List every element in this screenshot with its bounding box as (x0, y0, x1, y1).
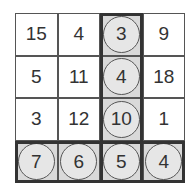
highlighted-cell: 4 (100, 56, 143, 99)
grid-cell: 18 (143, 56, 186, 99)
cell-value: 6 (73, 151, 84, 173)
grid-cell: 3 (15, 98, 58, 141)
cell-value: 15 (26, 23, 47, 45)
cell-value: 5 (116, 151, 127, 173)
cell-value: 18 (153, 66, 174, 88)
cell-value: 9 (158, 23, 169, 45)
grid-cell: 9 (143, 13, 186, 56)
circle-marker-icon: 4 (103, 58, 140, 95)
highlighted-cell: 5 (100, 141, 143, 184)
grid-cell: 15 (15, 13, 58, 56)
circle-marker-icon: 3 (103, 16, 140, 53)
circle-marker-icon: 7 (18, 143, 55, 180)
cell-value: 5 (31, 66, 42, 88)
highlighted-cell: 3 (100, 13, 143, 56)
grid-cell: 1 (143, 98, 186, 141)
highlighted-cell: 7 (15, 141, 58, 184)
circle-marker-icon: 4 (145, 143, 182, 180)
cell-value: 1 (158, 108, 169, 130)
highlighted-cell: 6 (58, 141, 101, 184)
grid-cell: 11 (58, 56, 101, 99)
circle-marker-icon: 6 (60, 143, 97, 180)
cell-value: 12 (68, 108, 89, 130)
number-grid: 456711012318411593415 (15, 13, 185, 183)
grid-cell: 4 (58, 13, 101, 56)
grid-cell: 5 (15, 56, 58, 99)
cell-value: 4 (73, 23, 84, 45)
cell-value: 4 (158, 151, 169, 173)
cell-value: 10 (111, 108, 132, 130)
cell-value: 11 (69, 66, 89, 88)
circle-marker-icon: 10 (103, 101, 140, 138)
cell-value: 3 (116, 23, 127, 45)
grid-cell: 12 (58, 98, 101, 141)
highlighted-cell: 4 (143, 141, 186, 184)
cell-value: 4 (116, 66, 127, 88)
highlighted-cell: 10 (100, 98, 143, 141)
cell-value: 7 (31, 151, 42, 173)
cell-value: 3 (31, 108, 42, 130)
circle-marker-icon: 5 (103, 143, 140, 180)
